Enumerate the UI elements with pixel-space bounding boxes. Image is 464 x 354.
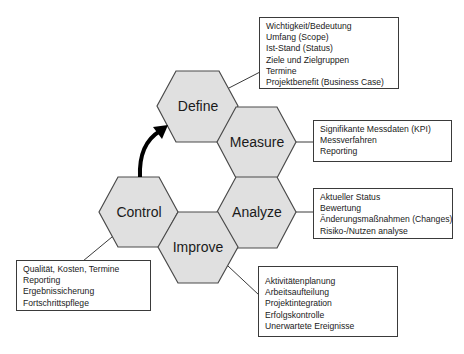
control-item: Ergebnissicherung [23,286,144,297]
define-item: Termine [266,66,392,77]
improve-item: Erfolgskontrolle [265,310,391,321]
control-item: Reporting [23,275,144,286]
define-item: Wichtigkeit/Bedeutung [266,21,392,32]
measure-details-box: Signifikante Messdaten (KPI) Messverfahr… [313,120,452,162]
define-item: Projektbenefit (Business Case) [266,77,392,88]
hex-define-label: Define [178,98,219,114]
hex-analyze-label: Analyze [232,204,282,220]
improve-item: Aktivitätenplanung [265,276,391,287]
hex-control-label: Control [116,204,161,220]
control-details-box: Qualität, Kosten, Termine Reporting Erge… [16,260,151,311]
analyze-details-box: Aktueller Status Bewertung Änderungsmaßn… [313,188,453,239]
analyze-item: Aktueller Status [320,192,446,203]
measure-item: Reporting [320,146,445,157]
improve-item: Arbeitsaufteilung [265,287,391,298]
improve-item: Projektintegration [265,298,391,309]
control-item: Qualität, Kosten, Termine [23,264,144,275]
analyze-item: Risiko-/Nutzen analyse [320,226,446,237]
measure-item: Signifikante Messdaten (KPI) [320,124,445,135]
connector-define [227,72,260,89]
control-item: Fortschrittspflege [23,298,144,309]
measure-item: Messverfahren [320,135,445,146]
improve-item: Unerwartete Ereignisse [265,321,391,332]
define-item: Ziele und Zielgruppen [266,55,392,66]
improve-details-box: Aktivitätenplanung Arbeitsaufteilung Pro… [258,266,398,337]
hex-improve-label: Improve [173,239,224,255]
define-item: Ist-Stand (Status) [266,43,392,54]
define-item: Umfang (Scope) [266,32,392,43]
connector-improve [228,266,259,295]
analyze-item: Änderungsmaßnahmen (Changes) [320,214,446,225]
cycle-arrow-icon [140,125,168,177]
analyze-item: Bewertung [320,203,446,214]
hex-measure-label: Measure [230,134,285,150]
define-details-box: Wichtigkeit/Bedeutung Umfang (Scope) Ist… [259,17,399,89]
